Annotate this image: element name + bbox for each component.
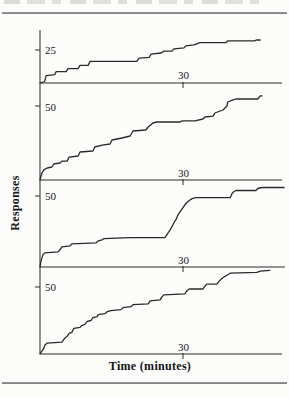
bottom-rule: [2, 382, 287, 384]
cumulative-record-curve-2: [40, 96, 262, 180]
y-scale-label-panel-3: 50: [45, 190, 67, 202]
y-scale-label-panel-4: 50: [45, 281, 67, 293]
cumulative-records-chart: [0, 0, 289, 398]
y-axis-title: Responses: [8, 158, 22, 248]
x-tick-label-panel-4: 30: [175, 341, 192, 353]
x-tick-label-panel-3: 30: [175, 254, 192, 266]
x-tick-label-panel-1: 30: [175, 69, 192, 81]
y-scale-label-panel-2: 50: [45, 101, 67, 113]
cumulative-record-curve-1: [40, 40, 260, 83]
cumulative-record-curve-3: [40, 188, 284, 268]
figure-page: 25 50 50 50 30 30 30 30 Responses Time (…: [0, 0, 289, 398]
x-axis-title: Time (minutes): [60, 359, 240, 373]
y-scale-label-panel-1: 25: [45, 44, 67, 56]
x-tick-label-panel-2: 30: [175, 167, 192, 179]
cumulative-record-curve-4: [40, 270, 270, 354]
